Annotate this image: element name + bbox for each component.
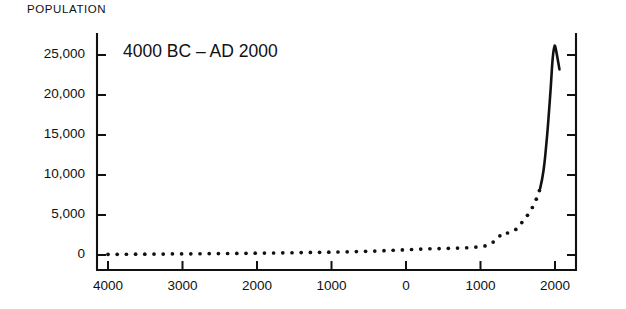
x-tick-label: 4000 (78, 278, 138, 293)
data-dot (281, 251, 285, 255)
data-dot (198, 252, 202, 256)
data-dot (263, 251, 267, 255)
dotted-series-group (106, 189, 541, 257)
data-dot (526, 213, 530, 217)
x-tick-label: 1000 (302, 278, 362, 293)
data-dot (514, 228, 518, 232)
data-dot (364, 249, 368, 253)
data-dot (171, 252, 175, 256)
x-tick-label: 1000 (451, 278, 511, 293)
data-dot (498, 234, 502, 238)
data-dot (318, 250, 322, 254)
axes-group (96, 33, 577, 270)
data-dot (446, 246, 450, 250)
data-dot (382, 249, 386, 253)
data-dot (217, 252, 221, 256)
data-dot (531, 206, 535, 210)
data-dot (345, 250, 349, 254)
data-dot (299, 251, 303, 255)
data-dot (134, 252, 138, 256)
data-dot (189, 252, 193, 256)
y-tick-label: 20,000 (13, 86, 85, 101)
data-dot (290, 251, 294, 255)
data-dot (456, 246, 460, 250)
data-dot (309, 251, 313, 255)
data-dot (207, 252, 211, 256)
data-dot (272, 251, 276, 255)
solid-series-group (540, 46, 559, 189)
data-dot (355, 250, 359, 254)
data-dot (506, 231, 510, 235)
x-tick-label: 3000 (153, 278, 213, 293)
y-tick-label: 5,000 (13, 206, 85, 221)
data-dot (534, 197, 538, 201)
data-dot (410, 248, 414, 252)
y-tick-label: 0 (13, 246, 85, 261)
data-dot (161, 252, 165, 256)
data-dot (520, 221, 524, 225)
data-dot (152, 252, 156, 256)
y-tick-label: 10,000 (13, 166, 85, 181)
data-dot (106, 253, 110, 257)
data-dot (125, 252, 129, 256)
data-dot (336, 250, 340, 254)
data-dot (143, 252, 147, 256)
data-dot (428, 247, 432, 251)
data-dot (253, 251, 257, 255)
data-dot (491, 240, 495, 244)
data-dot (419, 247, 423, 251)
data-dot (115, 252, 119, 256)
data-dot (235, 252, 239, 256)
data-dot (373, 249, 377, 253)
data-dot (437, 247, 441, 251)
population-chart-figure: POPULATION 4000 BC – AD 2000 05,00010,00… (0, 0, 626, 309)
population-curve (540, 46, 559, 189)
data-dot (465, 246, 469, 250)
data-dot (401, 248, 405, 252)
data-dot (391, 248, 395, 252)
x-tick-label: 2000 (227, 278, 287, 293)
x-tick-label: 0 (376, 278, 436, 293)
x-tick-label: 2000 (525, 278, 585, 293)
data-dot (474, 245, 478, 249)
y-tick-label: 25,000 (13, 46, 85, 61)
y-tick-label: 15,000 (13, 126, 85, 141)
chart-canvas (0, 0, 626, 309)
data-dot (180, 252, 184, 256)
data-dot (244, 251, 248, 255)
data-dot (226, 252, 230, 256)
tick-marks-group (97, 55, 576, 270)
data-dot (327, 250, 331, 254)
data-dot (483, 244, 487, 248)
